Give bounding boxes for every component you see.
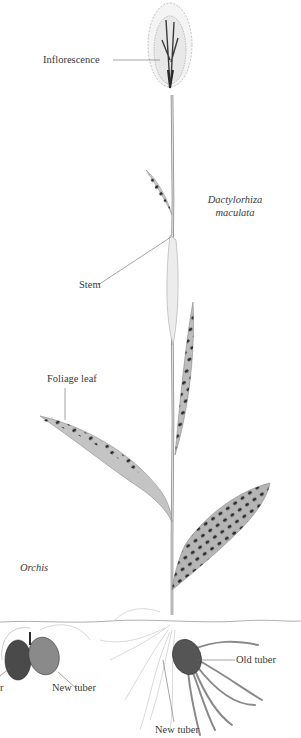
inflorescence-drawing [148, 3, 192, 88]
orchid-illustration: Inflorescence Stem Foliage leaf r New tu… [0, 0, 301, 738]
dactylorhiza-roots [100, 609, 175, 730]
species-epithet: maculata [200, 206, 270, 219]
orchis-tubers [2, 625, 90, 680]
species-name-orchis: Orchis [20, 561, 48, 574]
leader-lines [0, 60, 235, 722]
label-new-tuber-right: New tuber [155, 725, 199, 736]
label-inflorescence: Inflorescence [43, 55, 100, 66]
foliage-leaf-drawing [40, 416, 172, 522]
species-genus: Dactylorhiza [200, 193, 270, 206]
label-new-tuber-left: New tuber [52, 683, 96, 694]
label-stem: Stem [79, 280, 101, 291]
species-name-dactylorhiza: Dactylorhiza maculata [200, 193, 270, 219]
label-old-tuber-left-partial: r [0, 683, 4, 694]
label-old-tuber-right: Old tuber [236, 655, 276, 666]
label-foliage-leaf: Foliage leaf [47, 374, 97, 385]
ground-line [0, 620, 301, 622]
stem-sheath [167, 235, 178, 345]
old-tuber-left [5, 640, 31, 680]
plant-drawing [0, 0, 301, 738]
